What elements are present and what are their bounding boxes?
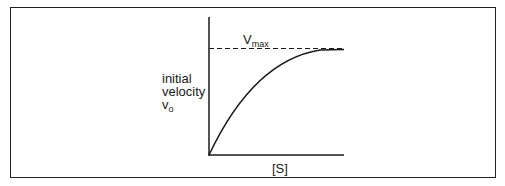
plot-area — [0, 0, 505, 186]
vmax-symbol: V — [243, 32, 252, 47]
y-axis-label: initial velocity vo — [162, 72, 205, 111]
saturation-curve — [209, 50, 344, 156]
v-subscript: o — [169, 104, 174, 114]
y-label-symbol: vo — [162, 98, 205, 111]
vmax-label: Vmax — [243, 33, 269, 51]
x-axis-label: [S] — [272, 162, 288, 176]
vmax-subscript: max — [252, 39, 269, 49]
